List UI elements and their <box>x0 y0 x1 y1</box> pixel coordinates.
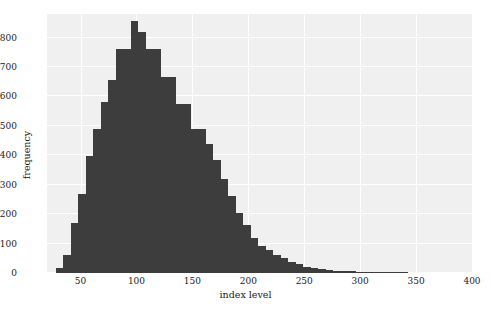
histogram-bar <box>123 49 130 273</box>
y-tick-label: 500 <box>0 121 17 131</box>
histogram-bar <box>101 102 108 273</box>
histogram-bar <box>266 250 273 273</box>
histogram-bar <box>363 272 370 273</box>
histogram-bar <box>393 272 400 273</box>
histogram-bar <box>78 194 85 273</box>
histogram-bar <box>71 223 78 273</box>
x-tick-label: 400 <box>442 276 491 286</box>
histogram-bar <box>198 129 205 273</box>
histogram-bar <box>206 144 213 274</box>
histogram-bar <box>273 255 280 273</box>
histogram-bar <box>378 272 385 273</box>
histogram-bar <box>191 129 198 273</box>
histogram-bar <box>236 213 243 273</box>
histogram-bar <box>153 49 160 273</box>
histogram-bar <box>183 104 190 273</box>
histogram-bar <box>168 77 175 273</box>
y-tick-label: 400 <box>0 150 17 160</box>
histogram-bar <box>93 129 100 273</box>
histogram-bar <box>63 255 70 273</box>
y-tick-label: 700 <box>0 62 17 72</box>
histogram-bars <box>47 14 472 273</box>
histogram-bar <box>131 21 138 273</box>
x-tick-label: 100 <box>106 276 166 286</box>
histogram-bar <box>386 272 393 273</box>
histogram-bar <box>161 77 168 273</box>
histogram-bar <box>318 269 325 273</box>
y-tick-label: 300 <box>0 180 17 190</box>
y-tick-label: 0 <box>0 268 17 278</box>
x-tick-label: 300 <box>330 276 390 286</box>
histogram-bar <box>333 271 340 273</box>
histogram-bar <box>146 49 153 273</box>
x-tick-label: 200 <box>218 276 278 286</box>
histogram-bar <box>213 160 220 273</box>
histogram-bar <box>56 268 63 273</box>
y-tick-label: 100 <box>0 239 17 249</box>
histogram-bar <box>228 196 235 273</box>
histogram-bar <box>108 80 115 273</box>
x-tick-label: 350 <box>386 276 446 286</box>
histogram-bar <box>401 272 408 273</box>
histogram-bar <box>86 156 93 273</box>
y-tick-label: 200 <box>0 209 17 219</box>
x-axis-title: index level <box>0 289 491 300</box>
y-tick-label: 600 <box>0 91 17 101</box>
x-tick-label: 150 <box>162 276 222 286</box>
histogram-bar <box>138 32 145 273</box>
histogram-bar <box>288 262 295 273</box>
histogram-bar <box>258 246 265 273</box>
histogram-bar <box>356 272 363 273</box>
histogram-figure: 0100200300400500600700800 50100150200250… <box>0 0 491 309</box>
histogram-bar <box>176 104 183 273</box>
histogram-bar <box>281 258 288 273</box>
x-tick-label: 50 <box>51 276 111 286</box>
histogram-bar <box>116 49 123 273</box>
histogram-bar <box>348 271 355 273</box>
plot-area <box>47 14 472 273</box>
histogram-bar <box>311 268 318 273</box>
histogram-bar <box>221 179 228 273</box>
histogram-bar <box>341 271 348 273</box>
y-axis-title: frequency <box>21 130 32 178</box>
histogram-bar <box>303 267 310 273</box>
histogram-bar <box>326 270 333 273</box>
x-tick-label: 250 <box>274 276 334 286</box>
histogram-bar <box>296 264 303 273</box>
histogram-bar <box>243 225 250 273</box>
y-tick-label: 800 <box>0 33 17 43</box>
histogram-bar <box>251 238 258 273</box>
histogram-bar <box>371 272 378 273</box>
